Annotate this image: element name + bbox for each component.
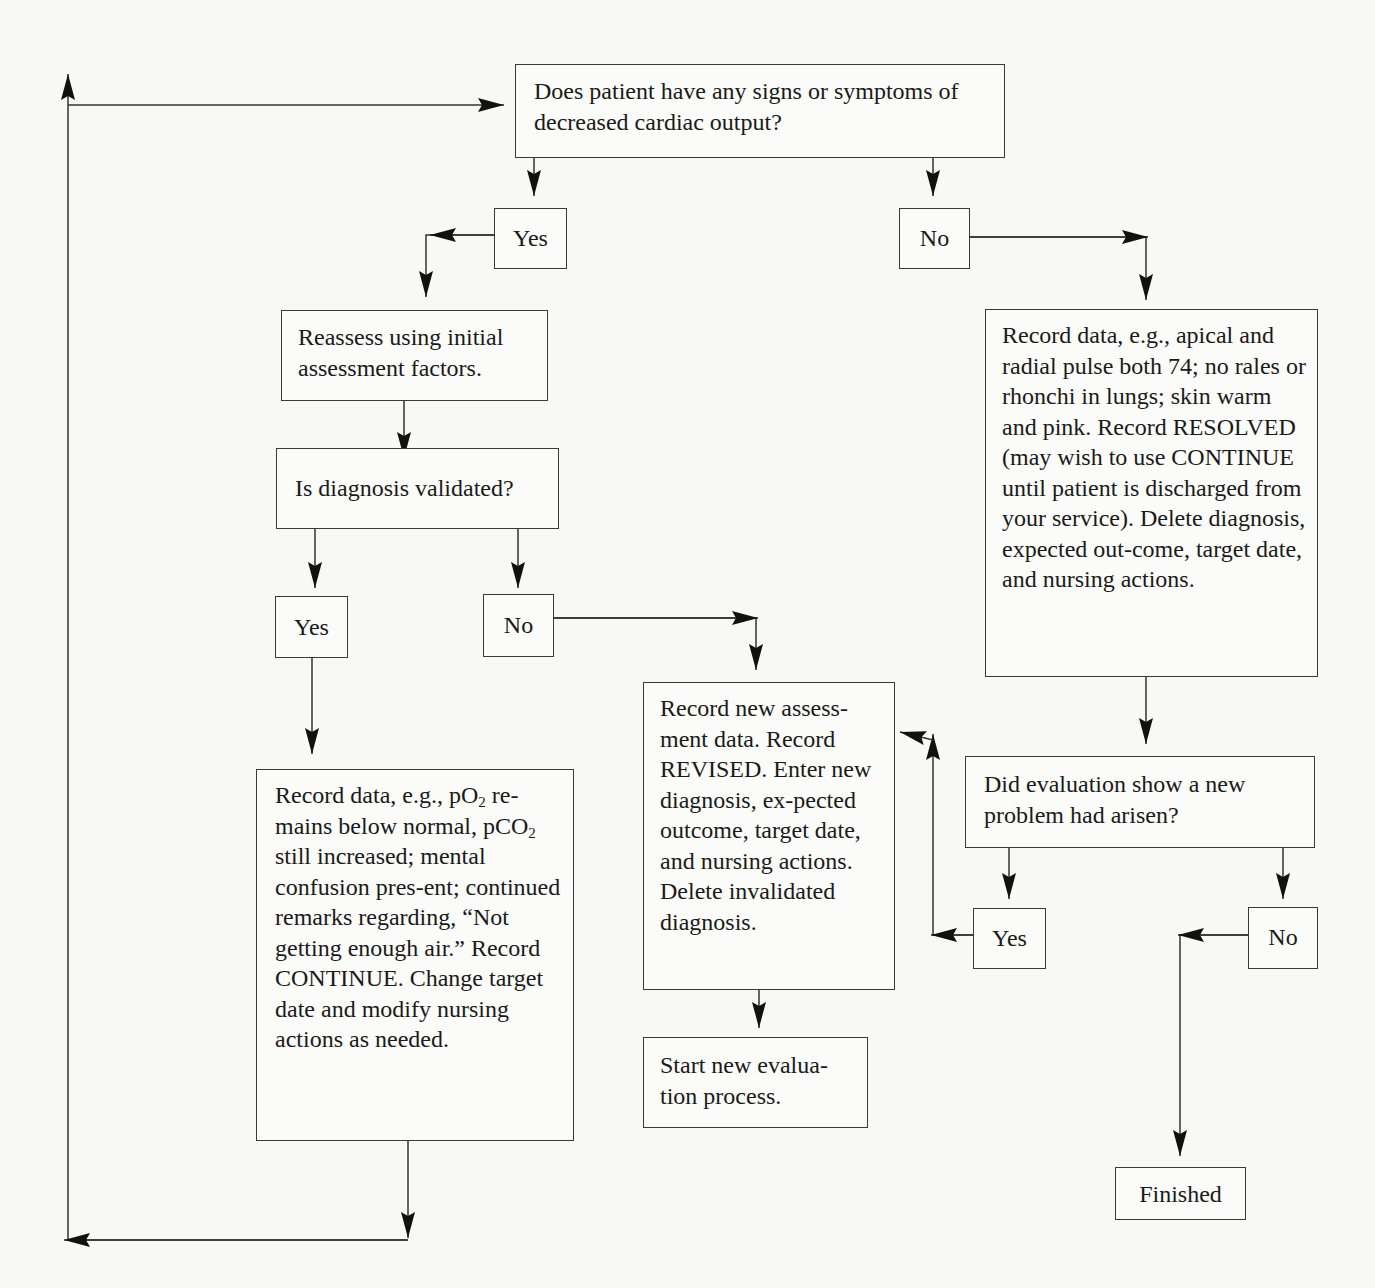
question-cardiac-output: Does patient have any signs or symptoms … bbox=[515, 64, 1005, 158]
arrow-no3-finished bbox=[1180, 935, 1248, 1156]
subscript-2: 2 bbox=[528, 825, 536, 841]
question-diagnosis-validated: Is diagnosis validated? bbox=[276, 448, 559, 529]
subscript-2: 2 bbox=[478, 794, 486, 810]
reassess-box: Reassess using initial assessment factor… bbox=[281, 310, 548, 401]
answer-no-validated: No bbox=[483, 594, 554, 657]
answer-yes-validated: Yes bbox=[275, 596, 348, 658]
question-new-problem: Did evaluation show a new problem had ar… bbox=[965, 756, 1315, 848]
start-new-evaluation-box: Start new evalua-tion process. bbox=[643, 1037, 868, 1128]
arrow-no1-resolved bbox=[969, 237, 1146, 300]
record-continue-text-3: still increased; mental confusion pres-e… bbox=[275, 843, 560, 1052]
arrow-yes1-reassess bbox=[426, 235, 494, 297]
answer-no-new-problem: No bbox=[1248, 907, 1318, 969]
record-continue-text-1: Record data, e.g., pO bbox=[275, 782, 478, 808]
record-continue-box: Record data, e.g., pO2 re-mains below no… bbox=[256, 769, 574, 1141]
finished-box: Finished bbox=[1115, 1167, 1246, 1220]
answer-no-cardiac: No bbox=[899, 208, 970, 269]
record-revised-box: Record new assess-ment data. Record REVI… bbox=[643, 682, 895, 990]
record-resolved-box: Record data, e.g., apical and radial pul… bbox=[985, 309, 1318, 677]
answer-yes-new-problem: Yes bbox=[973, 908, 1046, 969]
arrow-no2-revised bbox=[553, 618, 756, 670]
answer-yes-cardiac: Yes bbox=[494, 208, 567, 269]
